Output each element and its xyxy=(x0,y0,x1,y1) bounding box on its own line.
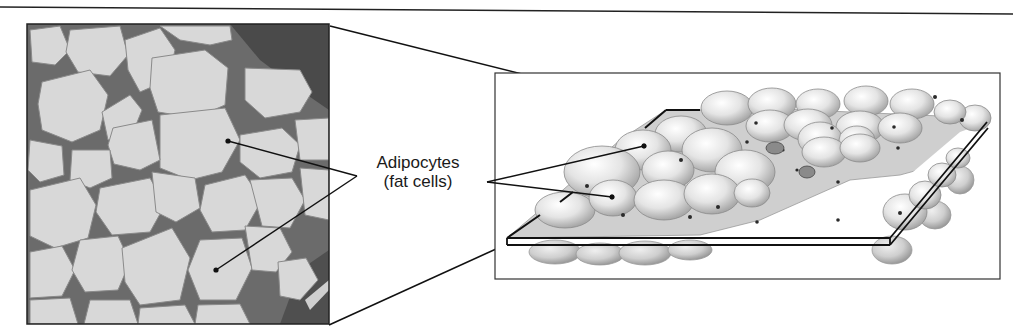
top-rule xyxy=(0,7,1013,14)
adipocytes-label: Adipocytes (fat cells) xyxy=(352,153,484,191)
label-line-1: Adipocytes xyxy=(352,153,484,172)
label-line-2: (fat cells) xyxy=(352,172,484,191)
adipose-tissue-figure xyxy=(0,0,1013,335)
zoom-connector-bottom xyxy=(329,244,507,325)
light-micrograph xyxy=(27,24,329,324)
